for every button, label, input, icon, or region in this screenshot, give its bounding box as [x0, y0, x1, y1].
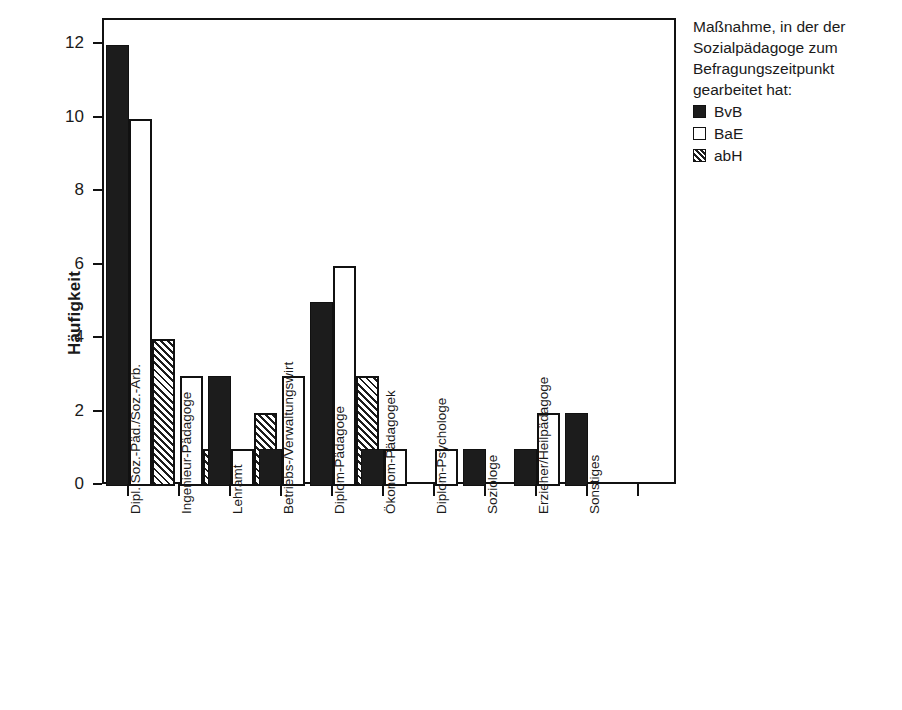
y-tick-mark — [93, 189, 102, 191]
y-tick-mark — [93, 263, 102, 265]
y-tick-label: 0 — [44, 475, 84, 492]
x-axis-label-3: Betriebs-/Verwaltungswirt — [282, 362, 296, 514]
bar-bvb-5 — [361, 449, 384, 486]
bar-chart-figure: Häufigkeit 024681012 Dipl. Soz.-Päd./Soz… — [0, 0, 902, 710]
y-tick-label: 8 — [44, 181, 84, 198]
x-axis-label-1: Ingenieur-Pädagoge — [180, 392, 194, 514]
x-axis-label-0: Dipl. Soz.-Päd./Soz.-Arb. — [129, 364, 143, 514]
x-axis-label-4: Diplom-Pädagoge — [333, 406, 347, 514]
legend-title: Maßnahme, in der der Sozialpädagoge zum … — [693, 16, 893, 100]
x-tick-mark — [637, 484, 639, 496]
y-tick-mark — [93, 42, 102, 44]
legend-items: BvBBaEabH — [693, 101, 893, 166]
bar-bvb-7 — [463, 449, 486, 486]
x-axis-label-6: Diplom-Psychologe — [435, 398, 449, 514]
y-tick-mark — [93, 336, 102, 338]
legend-item-bvb: BvB — [693, 101, 893, 122]
legend-label: BaE — [714, 126, 743, 142]
legend-swatch-icon-abh — [693, 149, 706, 162]
y-tick-mark — [93, 483, 102, 485]
bar-bvb-8 — [514, 449, 537, 486]
legend-item-abh: abH — [693, 145, 893, 166]
y-tick-label: 2 — [44, 402, 84, 419]
bar-bvb-0 — [106, 45, 129, 486]
x-axis-label-8: Erzieher/Heilpädagoge — [537, 377, 551, 514]
y-tick-label: 4 — [44, 328, 84, 345]
bar-bvb-2 — [208, 376, 231, 486]
bar-abh-0 — [152, 339, 175, 486]
x-axis-label-7: Soziologe — [486, 455, 500, 514]
legend-label: abH — [714, 148, 742, 164]
y-tick-label: 12 — [44, 34, 84, 51]
legend-swatch-icon-bvb — [693, 105, 706, 118]
legend-label: BvB — [714, 104, 742, 120]
x-axis-label-9: Sonstiges — [588, 455, 602, 514]
y-tick-label: 6 — [44, 255, 84, 272]
x-axis-label-5: Ökonom-Pädagogek — [384, 390, 398, 514]
x-axis-label-2: Lehramt — [231, 464, 245, 514]
y-tick-label: 10 — [44, 108, 84, 125]
bar-bvb-4 — [310, 302, 333, 486]
y-tick-mark — [93, 410, 102, 412]
bar-bvb-3 — [259, 449, 282, 486]
legend-item-bae: BaE — [693, 123, 893, 144]
legend: Maßnahme, in der der Sozialpädagoge zum … — [693, 16, 893, 166]
legend-swatch-icon-bae — [693, 127, 706, 140]
y-tick-mark — [93, 116, 102, 118]
bar-bvb-9 — [565, 413, 588, 487]
